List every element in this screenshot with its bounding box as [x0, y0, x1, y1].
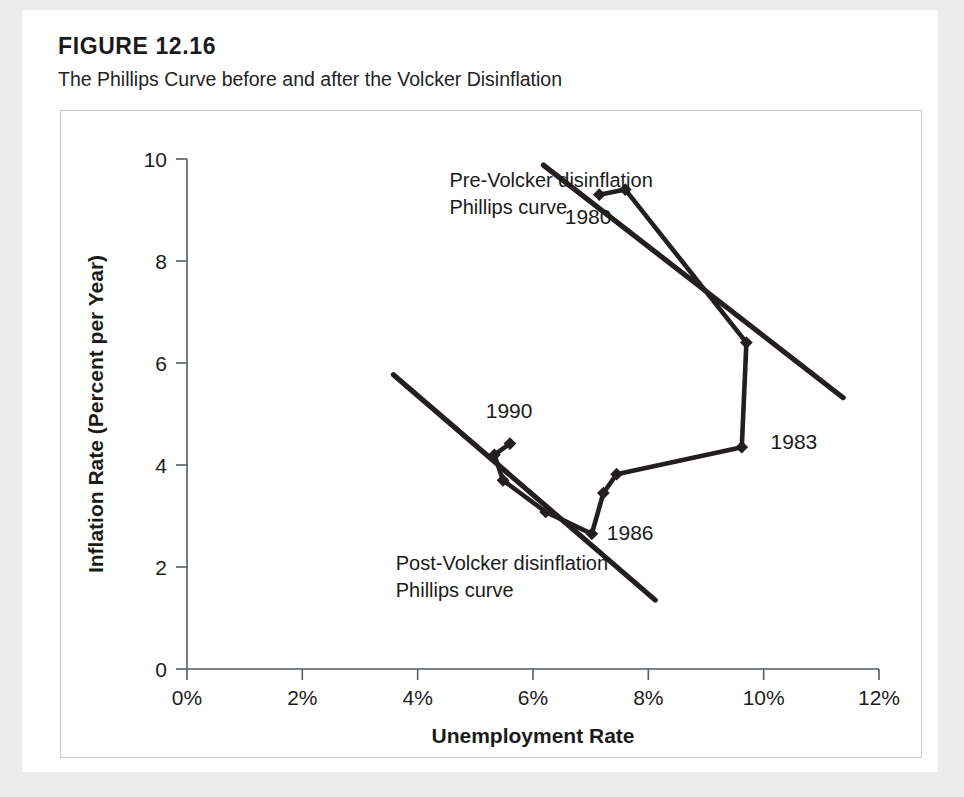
- y-axis-tick-label: 10: [144, 148, 167, 171]
- x-axis-tick-label: 4%: [402, 686, 432, 709]
- axis-lines: [187, 159, 879, 669]
- figure-card: FIGURE 12.16 The Phillips Curve before a…: [22, 10, 938, 772]
- annotation-pre-volcker: Pre-Volcker disinflationPhillips curve: [449, 169, 652, 218]
- data-path: [494, 190, 746, 534]
- x-axis-tick-label: 10%: [743, 686, 785, 709]
- figure-title: The Phillips Curve before and after the …: [58, 67, 898, 92]
- svg-text:Phillips curve: Phillips curve: [449, 196, 567, 218]
- figure-page: FIGURE 12.16 The Phillips Curve before a…: [0, 0, 964, 797]
- x-axis-title: Unemployment Rate: [431, 724, 634, 747]
- annotation-year-1980: 1980: [565, 205, 612, 228]
- phillips-curve-chart: 02468100%2%4%6%8%10%12%Unemployment Rate…: [61, 111, 921, 757]
- figure-caption: FIGURE 12.16 The Phillips Curve before a…: [58, 32, 898, 92]
- y-axis-tick-label: 2: [155, 556, 167, 579]
- x-axis-tick-label: 0%: [172, 686, 202, 709]
- annotation-post-volcker: Post-Volcker disinflationPhillips curve: [396, 552, 608, 601]
- trend-line: [543, 165, 843, 398]
- svg-text:Phillips curve: Phillips curve: [396, 579, 514, 601]
- annotation-year-1983: 1983: [771, 430, 818, 453]
- y-axis-tick-label: 4: [155, 454, 167, 477]
- y-axis-tick-label: 0: [155, 658, 167, 681]
- y-axis-title: Inflation Rate (Percent per Year): [84, 255, 107, 573]
- x-axis-tick-label: 12%: [858, 686, 900, 709]
- figure-number: FIGURE 12.16: [58, 32, 898, 61]
- y-axis-tick-label: 8: [155, 250, 167, 273]
- y-axis-tick-label: 6: [155, 352, 167, 375]
- svg-text:Pre-Volcker disinflation: Pre-Volcker disinflation: [449, 169, 652, 191]
- x-axis-tick-label: 8%: [633, 686, 663, 709]
- data-point-marker: [735, 441, 748, 454]
- x-axis-tick-label: 6%: [518, 686, 548, 709]
- annotation-year-1986: 1986: [607, 521, 654, 544]
- annotation-year-1990: 1990: [486, 399, 533, 422]
- chart-panel: 02468100%2%4%6%8%10%12%Unemployment Rate…: [60, 110, 922, 758]
- svg-text:Post-Volcker disinflation: Post-Volcker disinflation: [396, 552, 608, 574]
- x-axis-tick-label: 2%: [287, 686, 317, 709]
